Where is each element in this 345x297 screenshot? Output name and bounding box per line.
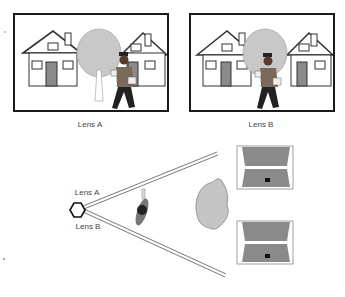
house-topdown-icon <box>237 146 293 189</box>
lens-a-diagram-label: Lens A <box>72 188 102 197</box>
camera-icon <box>70 203 85 217</box>
sight-lines <box>83 152 226 277</box>
house-icon <box>287 33 333 86</box>
lens-b-caption: Lens B <box>241 120 281 129</box>
lens-b-view-frame <box>189 13 335 112</box>
house-icon <box>23 31 81 86</box>
person-topdown-icon <box>133 189 151 227</box>
tree-icon <box>77 29 121 101</box>
lens-a-caption: Lens A <box>70 120 110 129</box>
lens-b-scene <box>191 15 333 110</box>
lens-b-diagram-label: Lens B <box>73 222 103 231</box>
lens-a-scene <box>15 15 167 110</box>
house-topdown-icon <box>237 221 293 264</box>
lens-a-view-frame <box>13 13 169 112</box>
tree-topdown-icon <box>196 179 228 230</box>
